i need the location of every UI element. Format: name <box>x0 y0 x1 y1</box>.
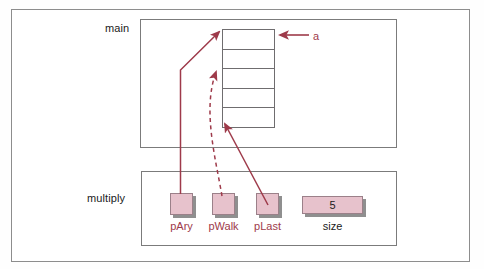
variable-pwalk: pWalk <box>212 193 235 215</box>
array-cell-3 <box>223 69 274 89</box>
variable-label-size: size <box>323 220 343 232</box>
variable-box-pary <box>170 193 193 215</box>
array-cell-1 <box>223 30 274 50</box>
variable-pary: pAry <box>170 193 193 215</box>
variable-label-pary: pAry <box>170 220 193 232</box>
scope-label-multiply: multiply <box>87 192 125 204</box>
array-label-a: a <box>313 30 319 42</box>
variable-label-plast: pLast <box>254 220 281 232</box>
array-a <box>222 29 275 128</box>
variable-size: 5 size <box>302 196 363 214</box>
variable-label-pwalk: pWalk <box>208 220 238 232</box>
array-cell-5 <box>223 108 274 127</box>
array-cell-4 <box>223 89 274 109</box>
variable-plast: pLast <box>256 193 279 215</box>
variable-box-plast <box>256 193 279 215</box>
diagram-canvas: main a multiply pAry pWalk pLast 5 size <box>0 0 484 269</box>
scope-label-main: main <box>105 22 129 34</box>
variable-box-size: 5 <box>302 196 363 214</box>
variable-box-pwalk <box>212 193 235 215</box>
array-cell-2 <box>223 50 274 70</box>
